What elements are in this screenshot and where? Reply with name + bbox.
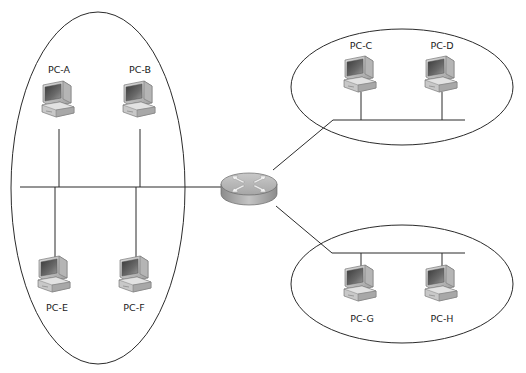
host-pc-b: PC-B: [123, 64, 155, 117]
host-label-pc-e: PC-E: [46, 302, 68, 313]
host-label-pc-b: PC-B: [129, 64, 151, 75]
host-pc-c: PC-C: [344, 40, 376, 92]
host-label-pc-h: PC-H: [431, 313, 454, 324]
network-diagram-canvas: PC-A PC-B PC-C PC-D PC-E PC-F PC-G PC-H: [0, 0, 526, 373]
host-pc-a: PC-A: [42, 64, 74, 117]
host-pc-f: PC-F: [119, 256, 151, 313]
host-pc-d: PC-D: [425, 40, 457, 92]
router-icon: [221, 173, 277, 205]
network-diagram: PC-A PC-B PC-C PC-D PC-E PC-F PC-G PC-H: [0, 0, 526, 373]
host-label-pc-c: PC-C: [350, 40, 373, 51]
host-pc-h: PC-H: [425, 265, 457, 324]
link-router-bottom-right: [276, 206, 332, 253]
host-pc-e: PC-E: [38, 256, 70, 313]
segment-bottom-right-boundary: [291, 225, 513, 343]
host-label-pc-f: PC-F: [123, 302, 144, 313]
link-router-top-right: [273, 120, 333, 170]
host-pc-g: PC-G: [344, 265, 376, 324]
segment-left-boundary: [11, 12, 185, 364]
host-label-pc-g: PC-G: [350, 313, 374, 324]
host-label-pc-a: PC-A: [48, 64, 71, 75]
host-label-pc-d: PC-D: [430, 40, 453, 51]
